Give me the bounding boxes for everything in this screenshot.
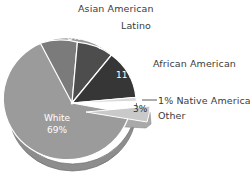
label-other: Other: [158, 110, 185, 121]
label-african-american: African American: [153, 58, 236, 69]
value-label-other: 3%: [133, 104, 147, 114]
value-label-white-pct: 69%: [35, 125, 79, 135]
label-asian-american: Asian American: [78, 3, 154, 14]
value-label-african-american: 11%: [116, 70, 136, 80]
label-native-american: 1% Native American: [158, 95, 250, 106]
value-label-white-name: White: [35, 113, 79, 123]
value-label-latino: 8%: [98, 41, 112, 51]
label-latino: Latino: [121, 20, 151, 31]
value-label-asian-american: 8%: [67, 32, 81, 42]
pie-chart-figure: Asian American Latino African American 1…: [0, 0, 250, 179]
pie-slices: [3, 38, 136, 160]
